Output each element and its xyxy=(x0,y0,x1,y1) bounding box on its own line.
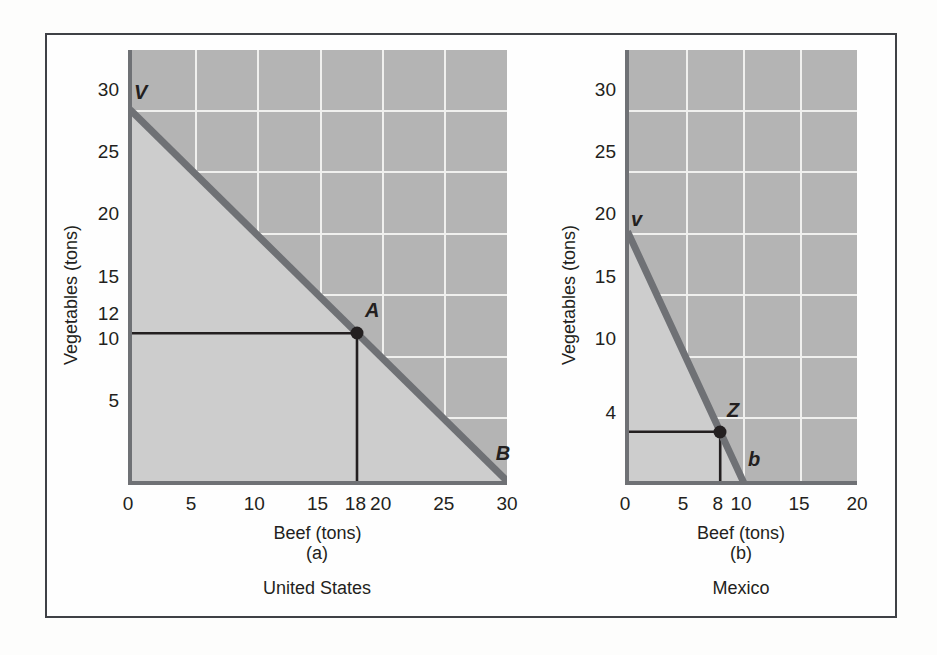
ppf-endpoint-label-v: V xyxy=(134,81,147,104)
y-tick-label: 20 xyxy=(98,203,119,225)
y-tick-label: 25 xyxy=(595,141,616,163)
x-tick-label: 20 xyxy=(370,493,391,515)
ppf-endpoint-label-v: v xyxy=(631,208,642,231)
ppf-endpoint-label-b: b xyxy=(748,448,760,471)
y-tick-label: 30 xyxy=(595,79,616,101)
x-axis-title: Beef (tons) xyxy=(697,523,785,544)
x-tick-label: 10 xyxy=(730,493,751,515)
x-tick-label: 30 xyxy=(496,493,517,515)
plot-mx: 30 25 20 15 10 4 0 5 8 10 15 20 v Z b Be… xyxy=(625,50,857,485)
x-tick-label: 10 xyxy=(244,493,265,515)
y-tick-label: 10 xyxy=(98,328,119,350)
panel-caption-name: United States xyxy=(263,578,371,599)
y-tick-label: 4 xyxy=(605,402,616,424)
panel-caption-letter: (a) xyxy=(306,543,328,564)
y-tick-label: 15 xyxy=(595,266,616,288)
x-tick-label: 15 xyxy=(788,493,809,515)
y-tick-label: 25 xyxy=(98,141,119,163)
plot-area-us xyxy=(128,50,507,485)
figure-root: 30 25 20 15 12 10 5 0 5 10 15 18 20 25 3… xyxy=(0,0,937,655)
x-axis-title: Beef (tons) xyxy=(273,523,361,544)
x-tick-label: 18 xyxy=(345,493,366,515)
y-tick-label: 20 xyxy=(595,203,616,225)
y-tick-label: 30 xyxy=(98,79,119,101)
figure-frame: 30 25 20 15 12 10 5 0 5 10 15 18 20 25 3… xyxy=(45,33,897,618)
data-point-a-marker xyxy=(351,327,364,340)
ppf-graphic-mx xyxy=(629,50,857,481)
x-tick-label: 8 xyxy=(713,493,724,515)
panel-caption-letter: (b) xyxy=(730,543,752,564)
plot-area-mx xyxy=(625,50,857,485)
y-axis-title: Vegetables (tons) xyxy=(61,225,82,365)
ppf-endpoint-label-b: B xyxy=(496,442,510,465)
x-tick-label: 15 xyxy=(307,493,328,515)
x-tick-label: 0 xyxy=(123,493,134,515)
x-tick-label: 25 xyxy=(433,493,454,515)
panel-united-states: 30 25 20 15 12 10 5 0 5 10 15 18 20 25 3… xyxy=(47,35,547,616)
x-tick-label: 5 xyxy=(678,493,689,515)
data-point-label-a: A xyxy=(365,299,379,322)
y-tick-label: 12 xyxy=(98,303,119,325)
data-point-z-marker xyxy=(714,425,727,438)
y-tick-label: 15 xyxy=(98,266,119,288)
x-tick-label: 5 xyxy=(186,493,197,515)
data-point-label-z: Z xyxy=(727,399,739,422)
x-tick-label: 20 xyxy=(846,493,867,515)
x-tick-label: 0 xyxy=(620,493,631,515)
y-axis-title: Vegetables (tons) xyxy=(559,225,580,365)
panel-mexico: 30 25 20 15 10 4 0 5 8 10 15 20 v Z b Be… xyxy=(547,35,899,616)
panel-caption-name: Mexico xyxy=(712,578,769,599)
y-tick-label: 5 xyxy=(108,390,119,412)
plot-us: 30 25 20 15 12 10 5 0 5 10 15 18 20 25 3… xyxy=(128,50,507,485)
ppf-graphic-us xyxy=(132,50,507,481)
y-tick-label: 10 xyxy=(595,328,616,350)
